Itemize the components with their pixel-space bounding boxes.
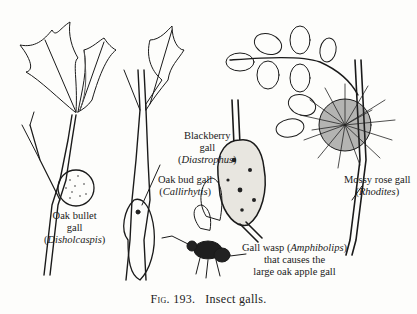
label-common-name: Mossy rose gall	[344, 174, 411, 186]
label-mossy-rose-gall: Mossy rose gall (Rhodites)	[344, 174, 411, 198]
label-latin-wrapper: (Diastrophus)	[178, 154, 237, 166]
label-common-name: Gall wasp	[242, 242, 284, 253]
label-latin-name: Amphibolips	[290, 242, 343, 253]
label-oak-bud-gall: Oak bud gall (Callirhytis)	[158, 174, 212, 198]
oak-bud-gall-drawing	[124, 26, 184, 280]
figure-prefix: Fig.	[151, 292, 170, 306]
label-latin-name: Disholcaspis	[48, 234, 102, 245]
label-blackberry-gall: Blackberry gall (Diastrophus)	[178, 130, 237, 166]
label-latin-name: Diastrophus	[182, 154, 234, 165]
label-latin-name: Rhodites	[359, 186, 396, 197]
figure-number: 193.	[173, 292, 195, 306]
label-latin-name: Callirhytis	[163, 186, 208, 197]
label-gall-wasp: Gall wasp (Amphibolips) that causes the …	[242, 242, 347, 278]
blackberry-gall-drawing	[218, 100, 265, 242]
label-oak-bullet-gall: Oak bullet gall (Disholcaspis)	[44, 210, 105, 246]
label-line-1: Gall wasp (Amphibolips)	[242, 242, 347, 254]
figure-caption: Fig. 193. Insect galls.	[0, 292, 417, 307]
label-common-name: Blackberry	[178, 130, 237, 142]
insect-galls-figure: Oak bullet gall (Disholcaspis) Oak bud g…	[0, 0, 417, 314]
label-common-name: Oak bud gall	[158, 174, 212, 186]
label-line-2: that causes the	[242, 254, 347, 266]
figure-title: Insect galls.	[205, 292, 266, 306]
label-latin-wrapper: (Rhodites)	[344, 186, 411, 198]
label-latin-wrapper: (Disholcaspis)	[44, 234, 105, 246]
label-common-name: Oak bullet	[44, 210, 105, 222]
label-line-3: large oak apple gall	[242, 266, 347, 278]
label-latin-wrapper: (Callirhytis)	[158, 186, 212, 198]
label-common-name-2: gall	[44, 222, 105, 234]
label-common-name-2: gall	[178, 142, 237, 154]
